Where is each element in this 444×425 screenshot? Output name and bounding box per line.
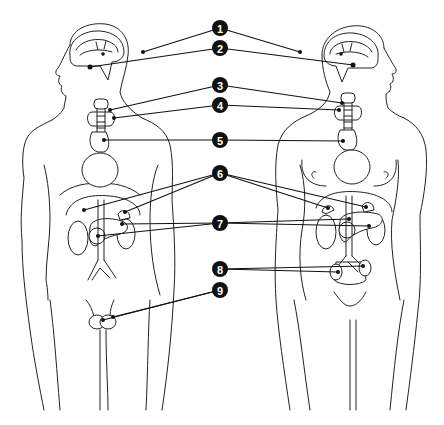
male-thymus: [90, 132, 109, 152]
male-kidney-left: [68, 221, 88, 255]
target-dot: [120, 222, 124, 226]
male-heart: [82, 153, 118, 187]
leader-line: [220, 28, 300, 52]
target-dot: [347, 217, 351, 221]
badge-number: 4: [217, 100, 224, 112]
target-dot: [341, 139, 345, 143]
female-duodenum: [339, 222, 355, 238]
target-dot: [82, 208, 86, 212]
label-layer: 123456789: [82, 20, 371, 322]
leader-line: [122, 223, 220, 224]
target-dot: [364, 205, 368, 209]
target-dot: [336, 270, 340, 274]
target-dot: [326, 206, 330, 210]
male-larynx: [94, 99, 108, 109]
target-dot: [141, 50, 145, 54]
male-pineal-dot: [101, 52, 105, 56]
male-brain: [70, 31, 124, 80]
female-heart: [334, 150, 370, 184]
target-dot: [123, 210, 127, 214]
female-adrenal-right: [362, 203, 374, 212]
male-figure: [21, 24, 175, 410]
badge-number: 6: [217, 168, 223, 180]
female-figure: [275, 26, 426, 410]
leader-line: [220, 269, 338, 272]
badge-number: 5: [217, 135, 223, 147]
callout-9: 9: [101, 282, 228, 322]
target-dot: [340, 101, 344, 105]
badge-number: 7: [217, 218, 223, 230]
target-dot: [108, 108, 112, 112]
leader-line: [220, 85, 342, 103]
leader-line: [220, 140, 343, 141]
badge-number: 1: [217, 23, 223, 35]
leader-line: [113, 290, 220, 317]
endocrine-diagram: 123456789: [0, 0, 444, 425]
female-ovary-right: [359, 260, 371, 276]
female-pelvis: [334, 292, 366, 306]
target-dot: [112, 116, 116, 120]
target-dot: [367, 224, 371, 228]
leader-line: [143, 28, 220, 52]
badge-number: 2: [217, 43, 223, 55]
callout-6: 6: [82, 165, 368, 214]
target-dot: [337, 108, 341, 112]
callout-4: 4: [112, 97, 341, 120]
target-dot: [102, 138, 106, 142]
target-dot: [96, 234, 100, 238]
male-genital-ducts: [86, 300, 114, 316]
target-dot: [298, 50, 302, 54]
leader-line: [220, 173, 328, 208]
leader-line: [114, 105, 220, 118]
callout-5: 5: [102, 132, 345, 148]
target-dot: [361, 264, 365, 268]
male-thyroid: [88, 112, 115, 126]
badge-number: 9: [217, 285, 223, 297]
target-dot: [88, 65, 92, 69]
leader-line: [220, 105, 339, 110]
target-dot: [101, 318, 105, 322]
diagram-canvas: 123456789: [0, 0, 444, 425]
female-legs: [294, 300, 404, 410]
target-dot: [111, 315, 115, 319]
female-pineal-dot: [339, 52, 343, 56]
female-thymus: [338, 130, 357, 150]
badge-number: 3: [217, 80, 223, 92]
female-brain: [324, 33, 378, 82]
leader-line: [110, 85, 220, 110]
target-dot: [351, 63, 355, 67]
badge-number: 8: [217, 264, 223, 276]
